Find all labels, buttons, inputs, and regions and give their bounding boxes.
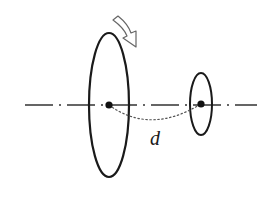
diagram-canvas: d — [0, 0, 266, 200]
distance-label: d — [150, 127, 161, 149]
large-disk-center-dot — [105, 101, 112, 108]
distance-curve — [109, 104, 201, 120]
small-disk-center-dot — [197, 100, 204, 107]
rotation-arrow-icon — [113, 16, 136, 47]
